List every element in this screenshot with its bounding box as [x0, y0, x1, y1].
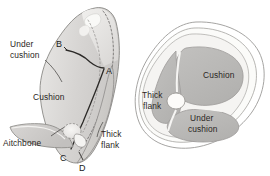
cross-cushion-label: Cushion: [203, 70, 235, 80]
cross-under-cushion-label-line2: cushion: [188, 124, 218, 134]
point-c-label: C: [60, 153, 67, 163]
side-thick-flank-label-line1: Thick: [101, 129, 122, 139]
side-aitchbone-label: Aitchbone: [3, 138, 41, 148]
figure-root: Under cushion Cushion Aitchbone Thick fl…: [0, 0, 270, 176]
beef-cut-diagram: Under cushion Cushion Aitchbone Thick fl…: [0, 0, 270, 176]
cross-thick-flank-label-line1: Thick: [142, 90, 163, 100]
side-under-cushion-label-line2: cushion: [10, 50, 40, 60]
point-a-label: A: [106, 66, 112, 76]
cross-section-bone: [167, 93, 185, 109]
side-thick-flank-label-line2: flank: [101, 140, 120, 150]
side-cushion-label: Cushion: [33, 92, 65, 102]
cross-under-cushion-label-line1: Under: [190, 113, 213, 123]
point-d-label: D: [79, 163, 86, 173]
side-under-cushion-label-line1: Under: [10, 39, 33, 49]
cross-thick-flank-label-line2: flank: [143, 101, 162, 111]
point-b-label: B: [56, 39, 62, 49]
